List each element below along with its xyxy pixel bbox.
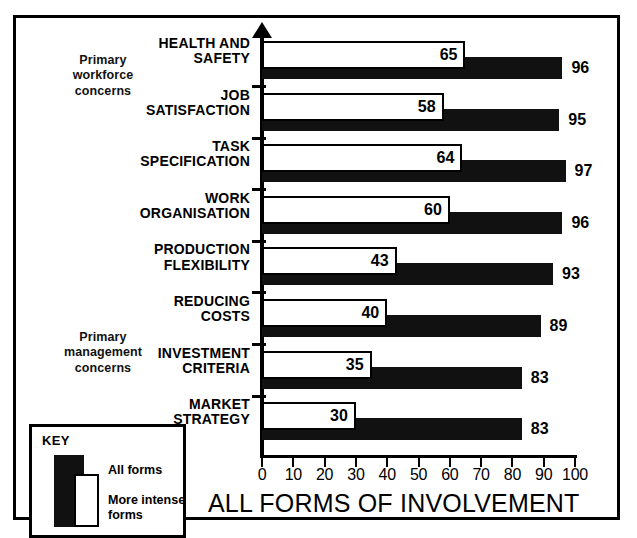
annotation-primary-workforce-concerns: Primary workforce concerns bbox=[28, 53, 178, 99]
legend-label-more-intense-forms: More intense forms bbox=[108, 493, 188, 523]
annotation-line-2: management bbox=[28, 345, 178, 360]
chart-title: ALL FORMS OF INVOLVEMENT bbox=[208, 489, 580, 518]
annotation-primary-management-concerns: Primary management concerns bbox=[28, 330, 178, 376]
annotation-line-1: Primary bbox=[28, 53, 178, 68]
legend-label-line-1: More intense bbox=[108, 493, 185, 507]
legend-title: KEY bbox=[42, 433, 70, 448]
annotation-line-1: Primary bbox=[28, 330, 178, 345]
legend-key-box: KEY All forms More intense forms bbox=[29, 424, 186, 538]
legend-swatch-more-intense-forms bbox=[74, 474, 99, 527]
legend-label-line-2: forms bbox=[108, 508, 143, 522]
annotation-line-3: concerns bbox=[28, 361, 178, 376]
annotation-line-3: concerns bbox=[28, 84, 178, 99]
annotation-line-2: workforce bbox=[28, 68, 178, 83]
legend-label-all-forms: All forms bbox=[108, 463, 162, 477]
